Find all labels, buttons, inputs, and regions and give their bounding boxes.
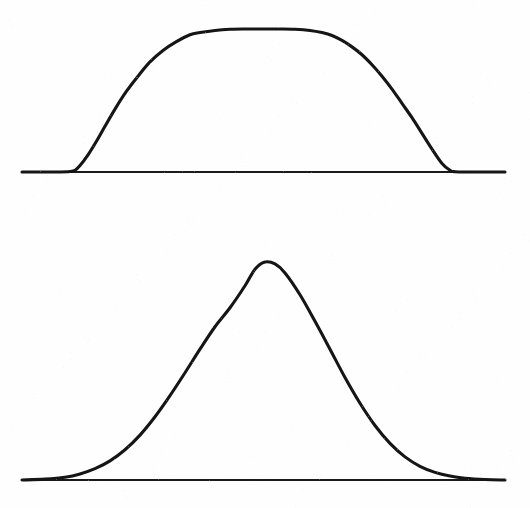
distribution-curves-figure [0, 0, 530, 508]
figure-container: Two hand-drawn distribution curves on pl… [0, 0, 530, 508]
paper-background [0, 0, 530, 508]
